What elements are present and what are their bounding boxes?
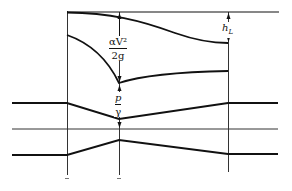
section-tick-inlet xyxy=(65,178,69,179)
hydraulic-grade-line xyxy=(67,35,228,83)
pressure-head-numerator: p xyxy=(115,92,121,103)
pipe-bottom-wall xyxy=(12,140,278,155)
velocity-head-label: αV² 2g xyxy=(108,36,128,61)
velocity-head-denominator: 2g xyxy=(112,50,125,61)
velocity-head-numerator: αV² xyxy=(109,36,127,47)
fraction-bar xyxy=(109,48,127,49)
head-loss-subscript: L xyxy=(228,28,233,36)
arrowhead-up-icon xyxy=(118,85,122,91)
head-loss-label: hL xyxy=(222,22,233,38)
pipe-top-wall xyxy=(12,103,278,119)
fraction-bar xyxy=(115,104,121,105)
arrowhead-up-icon xyxy=(118,13,122,19)
section-tick-throat xyxy=(117,178,121,179)
pressure-head-label: p γ xyxy=(114,92,122,117)
energy-grade-line xyxy=(67,13,228,44)
pressure-head-denominator: γ xyxy=(115,106,121,117)
arrowhead-down-icon xyxy=(118,122,122,128)
arrowhead-up-icon xyxy=(227,13,231,19)
venturi-diagram xyxy=(0,0,292,191)
